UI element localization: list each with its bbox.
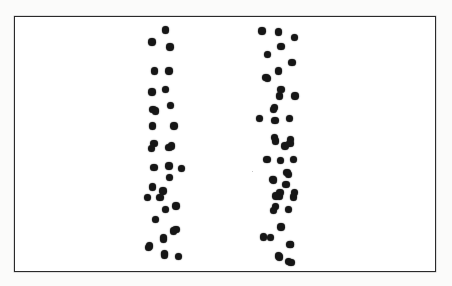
dot-marker (277, 43, 284, 50)
dot-marker (277, 86, 284, 93)
dot-marker (277, 223, 284, 230)
figure-frame (14, 16, 436, 272)
dot-marker (271, 104, 278, 111)
dot-marker (285, 171, 292, 178)
dot-marker (275, 28, 282, 35)
dot-marker (276, 253, 283, 260)
dot-marker (270, 207, 277, 214)
dot-marker (272, 137, 279, 144)
dot-marker (271, 117, 278, 124)
dot-marker (270, 176, 277, 183)
dot-marker (288, 59, 295, 66)
right-dot-column (15, 17, 435, 271)
dot-marker (286, 140, 293, 147)
dot-marker (256, 115, 263, 122)
dot-marker (258, 27, 265, 34)
dot-layer (15, 17, 435, 271)
dot-marker (286, 115, 293, 122)
dot-marker (287, 241, 294, 248)
figure-root (0, 0, 452, 286)
dot-marker (272, 192, 279, 199)
dot-marker (275, 67, 282, 74)
dot-marker (282, 181, 289, 188)
dot-marker (287, 259, 294, 266)
dot-marker (285, 206, 292, 213)
dot-marker (277, 157, 284, 164)
dot-marker (290, 156, 297, 163)
dot-marker (264, 75, 271, 82)
dot-marker (291, 92, 298, 99)
dot-marker (260, 233, 267, 240)
dot-marker (267, 234, 274, 241)
dot-marker (263, 156, 270, 163)
dot-marker (276, 92, 283, 99)
dot-marker (291, 34, 298, 41)
dot-marker (264, 51, 271, 58)
